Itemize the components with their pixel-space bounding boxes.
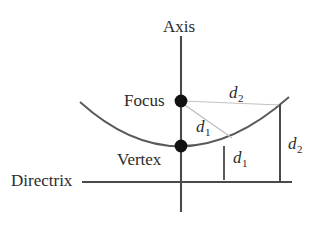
d2-upper-base: d <box>229 83 238 102</box>
d2-upper-subscript: 2 <box>238 92 244 104</box>
d2-right-label: d2 <box>288 135 303 155</box>
vertex-label: Vertex <box>117 151 161 168</box>
d2-upper-label: d2 <box>229 84 244 104</box>
parabola-diagram <box>0 0 317 228</box>
d1-upper-subscript: 1 <box>205 126 211 138</box>
d1-lower-label: d1 <box>233 149 248 169</box>
d1-lower-base: d <box>233 148 242 167</box>
figure-canvas: Axis Focus Vertex Directrix d1 d1 d2 d2 <box>0 0 317 228</box>
focus-label: Focus <box>124 92 165 109</box>
axis-label: Axis <box>163 18 195 35</box>
directrix-label: Directrix <box>11 172 72 189</box>
d1-lower-subscript: 1 <box>242 157 248 169</box>
d1-upper-base: d <box>196 117 205 136</box>
d2-right-base: d <box>288 134 297 153</box>
focus-point <box>175 95 188 108</box>
d2-right-subscript: 2 <box>297 143 303 155</box>
d1-upper-label: d1 <box>196 118 211 138</box>
vertex-point <box>175 140 188 153</box>
